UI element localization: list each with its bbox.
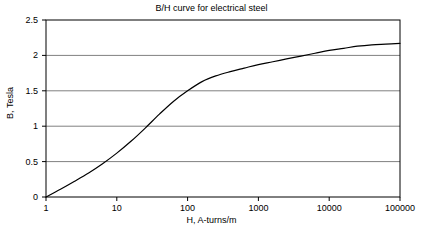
x-tick-label: 1000 xyxy=(228,203,288,213)
y-tick-label: 2.5 xyxy=(0,15,38,25)
x-tick-label: 1 xyxy=(16,203,76,213)
x-tick-label: 100 xyxy=(158,203,218,213)
x-tick-label: 10000 xyxy=(299,203,359,213)
y-tick-label: 2 xyxy=(0,50,38,60)
plot-canvas xyxy=(0,0,423,236)
y-tick-marks-group xyxy=(42,20,46,197)
gridlines-group xyxy=(46,55,400,161)
x-tick-label: 10 xyxy=(87,203,147,213)
x-axis-title: H, A-turns/m xyxy=(0,215,423,225)
y-tick-label: 0 xyxy=(0,192,38,202)
x-tick-marks-group xyxy=(46,197,400,201)
chart-figure: B/H curve for electrical steel H, A-turn… xyxy=(0,0,423,236)
plot-frame xyxy=(46,20,400,197)
x-tick-label: 100000 xyxy=(370,203,423,213)
y-tick-label: 1.5 xyxy=(0,86,38,96)
y-tick-label: 0.5 xyxy=(0,157,38,167)
y-tick-label: 1 xyxy=(0,121,38,131)
data-series-line xyxy=(46,43,400,197)
